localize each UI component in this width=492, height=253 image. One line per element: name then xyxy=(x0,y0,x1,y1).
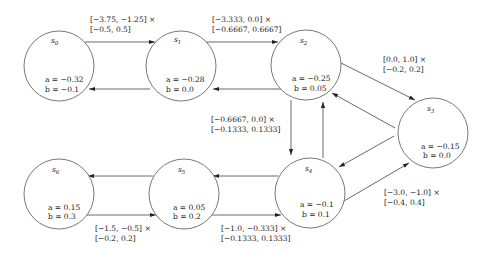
edge-label-s4-s3: [−3.0, −1.0] × [−0.4, 0.4] xyxy=(384,188,440,207)
edge-label-s0-s1-line1: [−3.75, −1.25] × xyxy=(90,15,155,24)
edge-label-s2-s4: [−0.6667, 0.0] × [−0.1333, 0.1333] xyxy=(211,115,280,134)
edge-label-s5-s4-line2: [−0.1333, 0.1333] xyxy=(221,234,290,243)
state-diagram: s0 a = −0.32 b = −0.1 s1 a = −0.28 b = 0… xyxy=(0,0,492,253)
edge-label-s1-s2-line1: [−3.333, 0.0] × xyxy=(212,15,271,24)
node-s4-b: b = 0.1 xyxy=(302,210,330,219)
edge-label-s2-s3-line1: [0.0, 1.0] × xyxy=(383,55,426,64)
edge-label-s0-s1: [−3.75, −1.25] × [−0.5, 0.5] xyxy=(90,15,155,34)
edge-label-s2-s3-line2: [−0.2, 0.2] xyxy=(383,65,424,74)
node-s1: s1 a = −0.28 b = 0.0 xyxy=(146,31,216,101)
node-s5-a: a = 0.05 xyxy=(173,203,205,212)
node-s2-a: a = −0.25 xyxy=(292,74,331,83)
node-s2: s2 a = −0.25 b = 0.05 xyxy=(271,30,341,100)
node-s5: s5 a = 0.05 b = 0.2 xyxy=(149,159,219,229)
edge-label-s1-s2-line2: [−0.6667, 0.6667] xyxy=(212,25,281,34)
node-s0-b: b = −0.1 xyxy=(45,85,79,94)
node-s1-a: a = −0.28 xyxy=(166,75,205,84)
node-s2-b: b = 0.05 xyxy=(294,84,327,93)
node-s0: s0 a = −0.32 b = −0.1 xyxy=(24,31,94,101)
edge-label-s4-s3-line1: [−3.0, −1.0] × xyxy=(384,188,440,197)
edge-label-s2-s4-line2: [−0.1333, 0.1333] xyxy=(211,125,280,134)
node-s1-b: b = 0.0 xyxy=(166,85,194,94)
edge-label-s6-s5: [−1.5, −0.5] × [−0.2, 0.2] xyxy=(95,224,151,243)
node-s4-a: a = −0.1 xyxy=(300,200,334,209)
edge-label-s2-s4-line1: [−0.6667, 0.0] × xyxy=(211,115,275,124)
edge-s3-s4 xyxy=(339,136,394,167)
edge-label-s0-s1-line2: [−0.5, 0.5] xyxy=(90,25,131,34)
node-s3-a: a = −0.15 xyxy=(421,142,460,151)
node-s0-a: a = −0.32 xyxy=(45,75,84,84)
edge-label-s6-s5-line1: [−1.5, −0.5] × xyxy=(95,224,151,233)
node-s6: s6 a = 0.15 b = 0.3 xyxy=(24,159,94,229)
edge-s3-s2 xyxy=(332,93,395,128)
node-s3-b: b = 0.0 xyxy=(423,151,451,160)
edge-label-s1-s2: [−3.333, 0.0] × [−0.6667, 0.6667] xyxy=(212,15,281,34)
node-s5-b: b = 0.2 xyxy=(173,212,201,221)
node-s3: s3 a = −0.15 b = 0.0 xyxy=(398,98,468,168)
edge-label-s6-s5-line2: [−0.2, 0.2] xyxy=(95,234,136,243)
node-s6-b: b = 0.3 xyxy=(48,212,76,221)
node-s6-a: a = 0.15 xyxy=(48,203,80,212)
edge-label-s4-s3-line2: [−0.4, 0.4] xyxy=(384,198,425,207)
edge-label-s2-s3: [0.0, 1.0] × [−0.2, 0.2] xyxy=(383,55,426,74)
node-s4: s4 a = −0.1 b = 0.1 xyxy=(275,158,345,228)
edge-label-s5-s4: [−1.0, −0.333] × [−0.1333, 0.1333] xyxy=(221,224,290,243)
edge-label-s5-s4-line1: [−1.0, −0.333] × xyxy=(221,224,286,233)
